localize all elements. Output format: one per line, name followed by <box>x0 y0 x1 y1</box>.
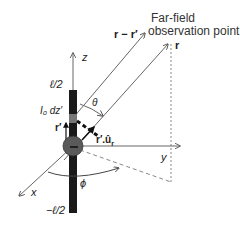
x-axis <box>19 146 73 196</box>
label-y-axis: y <box>161 152 167 163</box>
xy-projection-dashed-line <box>80 150 171 182</box>
current-element <box>69 114 77 123</box>
label-phi: ϕ <box>80 178 86 189</box>
label-projection-sub: r <box>111 140 114 147</box>
label-r: r <box>175 40 179 51</box>
center-sphere <box>63 136 83 156</box>
label-half-length-bottom: −ℓ/2 <box>46 205 65 216</box>
label-x-axis: x <box>31 187 37 198</box>
phi-arc <box>48 168 119 176</box>
far-field-title-line2: observation point <box>148 25 239 38</box>
projection-arrow <box>82 127 94 140</box>
label-current-element: I₀ dz′ <box>40 106 62 116</box>
label-r-minus-rprime: r − r′ <box>114 29 138 40</box>
label-theta: θ <box>92 98 97 108</box>
label-half-length-top: ℓ/2 <box>50 79 63 90</box>
label-projection-text: r′.û <box>96 134 111 145</box>
label-z-axis: z <box>82 52 88 63</box>
label-projection: r′.ûr <box>96 135 114 147</box>
label-r-prime: r′ <box>55 123 61 133</box>
